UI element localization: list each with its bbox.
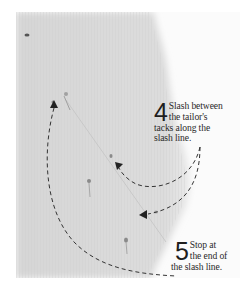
tailor-tack-icon [110,154,113,158]
step-5-number: 5 [175,241,189,261]
tailor-tack-icon [25,34,30,37]
step-4-line-4: slash line. [154,133,246,144]
tailor-tack-icon [124,238,128,243]
step-5-caption: 5 Stop at the end of the slash line. [175,240,247,272]
tailor-tack-icon [64,92,68,96]
tailor-tack-icon [87,179,91,183]
step-4-number: 4 [154,102,168,122]
step-4-caption: 4 Slash between the tailor's tacks along… [154,101,246,144]
step-5-line-3: the slash line. [171,262,247,273]
